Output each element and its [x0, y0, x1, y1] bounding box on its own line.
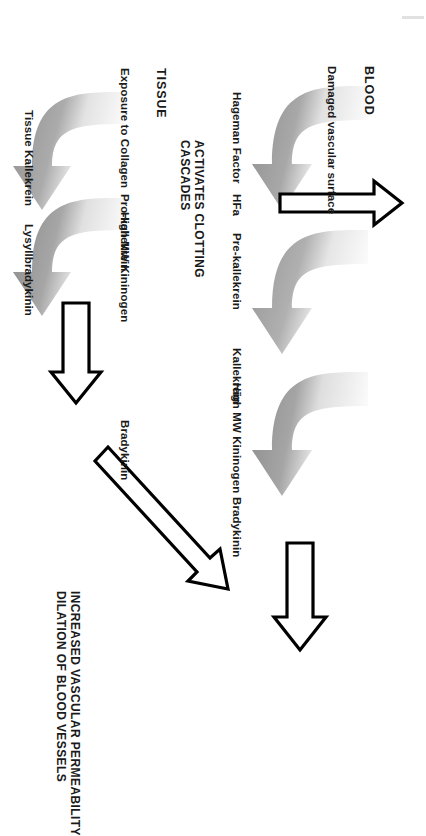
block-arrow-activates-clotting	[280, 181, 402, 225]
curved-arrow-blood-2	[252, 230, 368, 354]
curved-arrow-blood-3	[252, 372, 368, 496]
block-arrow-blood-to-outcome	[274, 543, 326, 650]
label-hfa: HFa	[230, 194, 243, 216]
section-header-blood: BLOOD	[362, 66, 376, 116]
label-damaged-vascular-surface: Damaged vascular surface	[325, 66, 338, 214]
section-header-tissue: TISSUE	[154, 68, 168, 119]
block-arrow-diagonal-to-outcome	[95, 447, 228, 589]
label-high-mw-kininogen-tissue: High MW Kininogen	[118, 212, 131, 322]
label-exposure-to-collagen: Exposure to Collagen	[118, 68, 131, 188]
label-high-mw-kininogen-blood: High MW Kininogen	[230, 383, 243, 493]
label-pre-kallekrein: Pre-kallekrein	[230, 233, 243, 310]
label-tissue-kallekrein: Tissue Kallekrein	[22, 110, 35, 206]
label-outcome: INCREASED VASCULAR PERMEABILITY DILATION…	[54, 591, 81, 836]
block-arrow-tissue-to-bradykinin	[51, 303, 101, 403]
label-lysyllbradykinin: Lysyllbradykinin	[22, 224, 35, 316]
label-activates-clotting-cascades: ACTIVATES CLOTTING CASCADES	[178, 140, 205, 278]
curved-arrow-blood-1	[252, 86, 368, 210]
label-hageman-factor: Hageman Factor	[230, 92, 243, 184]
label-bradykinin-tissue: Bradykinin	[118, 420, 131, 480]
label-bradykinin-blood: Bradykinin	[230, 497, 243, 557]
